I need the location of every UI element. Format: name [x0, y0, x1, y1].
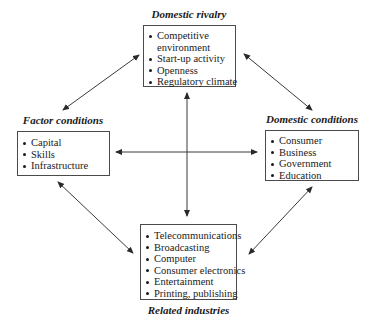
related-industries-title: Related industries [140, 304, 237, 316]
domestic-conditions-title: Domestic conditions [262, 113, 362, 125]
list-item: Computer [145, 253, 233, 265]
list-item: Education [270, 170, 355, 182]
domestic-rivalry-list: Competitive environment Start-up activit… [148, 30, 232, 88]
list-item: Broadcasting [145, 242, 233, 254]
list-item: Start-up activity [148, 53, 232, 65]
list-item: Consumer electronics [145, 265, 233, 277]
list-item: Regulatory climate [148, 76, 232, 88]
list-item: Skills [22, 149, 106, 161]
factor-conditions-title: Factor conditions [17, 114, 109, 126]
list-item: Business [270, 147, 355, 159]
related-industries-list: Telecommunications Broadcasting Computer… [145, 230, 233, 299]
list-item: Printing, publishing [145, 288, 233, 300]
porter-diamond-diagram: Domestic rivalry Competitive environment… [0, 0, 372, 325]
arrow-rivalry-domestic [244, 54, 312, 110]
arrow-rivalry-factor [63, 55, 139, 110]
list-item: Infrastructure [22, 160, 106, 172]
list-item: Entertainment [145, 276, 233, 288]
list-item: Openness [148, 65, 232, 77]
list-item: Telecommunications [145, 230, 233, 242]
list-item: Competitive [148, 30, 232, 42]
list-item: Government [270, 158, 355, 170]
arrow-factor-related [58, 182, 133, 253]
factor-conditions-list: Capital Skills Infrastructure [22, 137, 106, 172]
domestic-rivalry-title: Domestic rivalry [143, 8, 235, 20]
factor-conditions-box: Capital Skills Infrastructure [17, 131, 110, 176]
arrow-domestic-related [249, 187, 312, 254]
domestic-conditions-box: Consumer Business Government Education [265, 130, 359, 181]
list-item-continuation: environment [148, 42, 232, 54]
domestic-rivalry-box: Competitive environment Start-up activit… [143, 25, 236, 87]
list-item: Capital [22, 137, 106, 149]
domestic-conditions-list: Consumer Business Government Education [270, 135, 355, 181]
related-industries-box: Telecommunications Broadcasting Computer… [140, 224, 237, 300]
list-item: Consumer [270, 135, 355, 147]
